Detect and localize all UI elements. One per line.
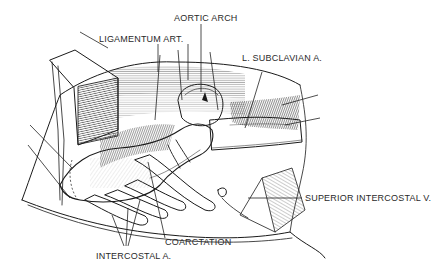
label-intercostal-arteries: INTERCOSTAL A. [96,251,171,261]
label-coarctation: COARCTATION [165,237,231,247]
illustration-drawing [0,0,446,275]
label-aortic-arch: AORTIC ARCH [174,13,238,23]
label-ligamentum-arteriosum: LIGAMENTUM ART. [99,34,183,44]
label-superior-intercostal-vein: SUPERIOR INTERCOSTAL V. [305,193,431,203]
label-left-subclavian-artery: L. SUBCLAVIAN A. [242,53,322,63]
superior-intercostal-vein [218,188,248,218]
anatomical-illustration: AORTIC ARCH LIGAMENTUM ART. L. SUBCLAVIA… [0,0,446,275]
retractor-blade-right [240,168,305,232]
